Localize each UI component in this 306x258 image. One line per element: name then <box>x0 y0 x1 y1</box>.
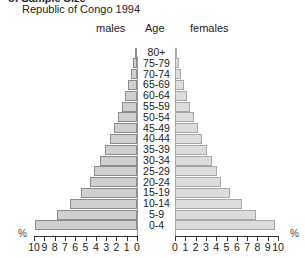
male-tick-label: 6 <box>69 241 81 253</box>
female-bar <box>175 69 181 79</box>
female-bar <box>175 188 230 198</box>
male-tick-label: 3 <box>100 241 112 253</box>
female-bar <box>175 48 177 58</box>
male-bar <box>110 134 137 144</box>
male-bar <box>114 123 137 133</box>
female-bar <box>175 220 275 230</box>
female-bar <box>175 199 242 209</box>
male-bar <box>94 166 137 176</box>
female-bar <box>175 112 194 122</box>
male-axis-unit: % <box>18 228 27 239</box>
male-bar <box>105 145 137 155</box>
male-bar <box>131 69 137 79</box>
male-tick-label: 9 <box>38 241 50 253</box>
male-tick-label: 0 <box>131 241 143 253</box>
male-bar <box>133 58 137 68</box>
female-bar <box>175 123 198 133</box>
female-bar <box>175 210 256 220</box>
male-bar <box>70 199 137 209</box>
male-bar <box>81 188 137 198</box>
female-bar <box>175 80 184 90</box>
female-bar <box>175 166 217 176</box>
female-bar <box>175 156 212 166</box>
male-tick-label: 4 <box>90 241 102 253</box>
male-bar <box>100 156 137 166</box>
male-tick-label: 2 <box>110 241 122 253</box>
male-bar <box>128 80 137 90</box>
female-tick-label: 10 <box>272 241 284 253</box>
male-bar <box>135 48 137 58</box>
male-bar <box>118 112 137 122</box>
female-bar <box>175 102 190 112</box>
male-tick-label: 1 <box>121 241 133 253</box>
population-pyramid: 80+75-7970-7465-6960-6455-5950-5445-4940… <box>0 0 306 258</box>
male-tick-label: 8 <box>49 241 61 253</box>
male-tick-label: 10 <box>28 241 40 253</box>
female-axis-unit: % <box>290 228 299 239</box>
female-bar <box>175 134 202 144</box>
age-label: 0-4 <box>138 220 176 231</box>
male-bar <box>35 220 137 230</box>
male-bar <box>57 210 137 220</box>
male-tick-label: 5 <box>80 241 92 253</box>
male-bar <box>90 177 137 187</box>
male-tick-label: 7 <box>59 241 71 253</box>
male-bar <box>122 102 137 112</box>
female-bar <box>175 177 221 187</box>
male-bar <box>125 91 137 101</box>
female-bar <box>175 58 179 68</box>
female-bar <box>175 145 207 155</box>
female-bar <box>175 91 187 101</box>
